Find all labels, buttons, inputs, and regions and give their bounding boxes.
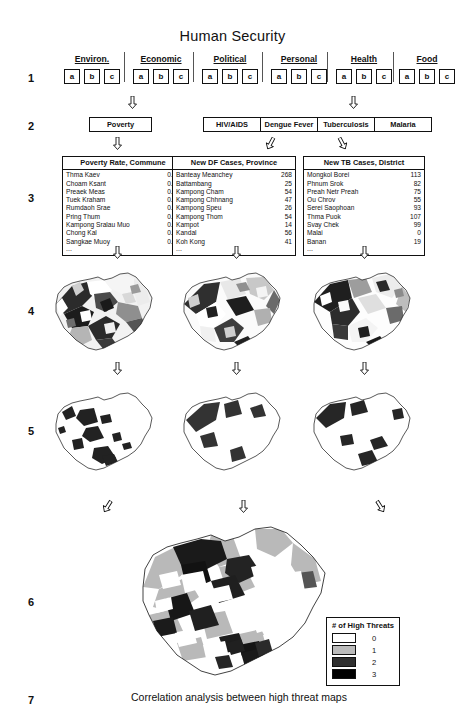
row-value: 93: [414, 204, 421, 212]
indicator-box-b[interactable]: b: [291, 69, 307, 84]
table-row[interactable]: Battambang25: [176, 180, 292, 188]
high-threat-map-poverty[interactable]: [42, 388, 162, 476]
row-name: Kampong Chhnang: [176, 196, 233, 204]
indicator-box-b[interactable]: b: [419, 69, 435, 84]
table-row[interactable]: Svay Chek99: [307, 221, 421, 229]
table-row[interactable]: Banan19: [307, 238, 421, 246]
row-name: Thma Kaev: [66, 171, 100, 179]
category-divider: [393, 52, 394, 82]
row-name: Ou Chrov: [307, 196, 335, 204]
category-health[interactable]: Health a b c: [330, 54, 398, 84]
table-row[interactable]: Malai0: [307, 229, 421, 237]
table-row[interactable]: Serei Saophoan93: [307, 204, 421, 212]
row-name: Choam Ksant: [66, 180, 106, 188]
row-value: 54: [285, 213, 292, 221]
node-poverty[interactable]: Poverty: [89, 117, 152, 132]
indicator-box-c[interactable]: c: [173, 69, 189, 84]
abc-row: a b c: [196, 69, 264, 84]
row-value: 0: [417, 229, 421, 237]
table-row[interactable]: Kampong Sralau Muo0.42: [66, 221, 180, 229]
category-divider: [262, 52, 263, 82]
row-number-1: 1: [22, 72, 40, 84]
indicator-box-a[interactable]: a: [336, 69, 352, 84]
row-value: 82: [414, 180, 421, 188]
legend-item: 2: [332, 657, 394, 667]
row-value: 268: [281, 171, 292, 179]
category-personal[interactable]: Personal a b c: [265, 54, 333, 84]
indicator-box-c[interactable]: c: [242, 69, 258, 84]
row-value: 107: [410, 213, 421, 221]
table-row[interactable]: Kampong Speu26: [176, 204, 292, 212]
indicator-box-c[interactable]: c: [376, 69, 392, 84]
high-threat-map-tb[interactable]: [300, 388, 420, 476]
row-value: 54: [285, 188, 292, 196]
table-body: Banteay Meanchey268 Battambang25 Kampong…: [173, 170, 295, 255]
node-malaria[interactable]: Malaria: [374, 117, 432, 132]
combined-high-threat-map[interactable]: [115, 515, 350, 685]
table-row[interactable]: Mongkol Borei113: [307, 171, 421, 179]
category-political[interactable]: Political a b c: [196, 54, 264, 84]
table-row[interactable]: Banteay Meanchey268: [176, 171, 292, 179]
category-environ[interactable]: Environ. a b c: [58, 54, 126, 84]
row-value: 113: [410, 171, 421, 179]
indicator-box-a[interactable]: a: [133, 69, 149, 84]
table-dengue-cases[interactable]: New DF Cases, Province Banteay Meanchey2…: [172, 156, 296, 256]
indicator-box-a[interactable]: a: [271, 69, 287, 84]
row-value: 75: [414, 188, 421, 196]
category-label: Environ.: [58, 54, 126, 64]
indicator-box-a[interactable]: a: [399, 69, 415, 84]
table-row[interactable]: Preah Netr Preah75: [307, 188, 421, 196]
table-row[interactable]: Koh Kong41: [176, 238, 292, 246]
indicator-box-c[interactable]: c: [439, 69, 455, 84]
row-value: 19: [414, 238, 421, 246]
figure-root: Human Security 1 2 3 4 5 6 7 Environ. a …: [0, 0, 465, 722]
table-row[interactable]: Choam Ksant0.59: [66, 180, 180, 188]
category-label: Political: [196, 54, 264, 64]
table-row[interactable]: Ou Chrov55: [307, 196, 421, 204]
indicator-box-b[interactable]: b: [356, 69, 372, 84]
category-economic[interactable]: Economic a b c: [127, 54, 195, 84]
row-name: Malai: [307, 229, 323, 237]
table-row[interactable]: Rumdaoh Srae0.47: [66, 204, 180, 212]
table-row[interactable]: Thma Puok107: [307, 213, 421, 221]
row-name: Battambang: [176, 180, 212, 188]
choropleth-map-poverty[interactable]: [42, 268, 162, 356]
map-legend: # of High Threats 0 1 2 3: [326, 617, 400, 686]
table-row[interactable]: Kampong Thom54: [176, 213, 292, 221]
table-row[interactable]: Kampot14: [176, 221, 292, 229]
table-row[interactable]: Kampong Chhnang47: [176, 196, 292, 204]
indicator-box-a[interactable]: a: [202, 69, 218, 84]
table-row[interactable]: Pring Thum0.31: [66, 213, 180, 221]
indicator-box-c[interactable]: c: [104, 69, 120, 84]
row-name: Thma Puok: [307, 213, 341, 221]
high-threat-map-dengue[interactable]: [170, 388, 290, 476]
table-row[interactable]: Kampong Cham54: [176, 188, 292, 196]
choropleth-map-tb[interactable]: [300, 268, 420, 356]
row-name: Kampong Thom: [176, 213, 223, 221]
table-tb-cases[interactable]: New TB Cases, District Mongkol Borei113 …: [303, 156, 425, 256]
row-value: 25: [285, 180, 292, 188]
row-name: Kampong Cham: [176, 188, 224, 196]
table-row[interactable]: Thma Kaev0.18: [66, 171, 180, 179]
node-dengue-fever[interactable]: Dengue Fever: [260, 117, 318, 132]
table-row[interactable]: Chong Kal0.68: [66, 229, 180, 237]
choropleth-map-dengue[interactable]: [170, 268, 290, 356]
table-poverty-rate[interactable]: Poverty Rate, Commune Thma Kaev0.18 Choa…: [62, 156, 184, 256]
node-hiv-aids[interactable]: HIV/AIDS: [203, 117, 261, 132]
category-food[interactable]: Food a b c: [396, 54, 458, 84]
table-row[interactable]: Sangkae Muoy0.73: [66, 238, 180, 246]
table-row[interactable]: Kandal56: [176, 229, 292, 237]
node-tuberculosis[interactable]: Tuberculosis: [317, 117, 375, 132]
table-row[interactable]: Preaek Meas0.14: [66, 188, 180, 196]
indicator-box-b[interactable]: b: [153, 69, 169, 84]
indicator-box-b[interactable]: b: [84, 69, 100, 84]
row-name: Mongkol Borei: [307, 171, 349, 179]
indicator-box-b[interactable]: b: [222, 69, 238, 84]
table-row[interactable]: Phnum Srok82: [307, 180, 421, 188]
category-label: Economic: [127, 54, 195, 64]
abc-row: a b c: [127, 69, 195, 84]
table-row[interactable]: Tuek Kraham0.42: [66, 196, 180, 204]
indicator-box-c[interactable]: c: [311, 69, 327, 84]
indicator-box-a[interactable]: a: [64, 69, 80, 84]
legend-swatch-1: [332, 645, 356, 655]
